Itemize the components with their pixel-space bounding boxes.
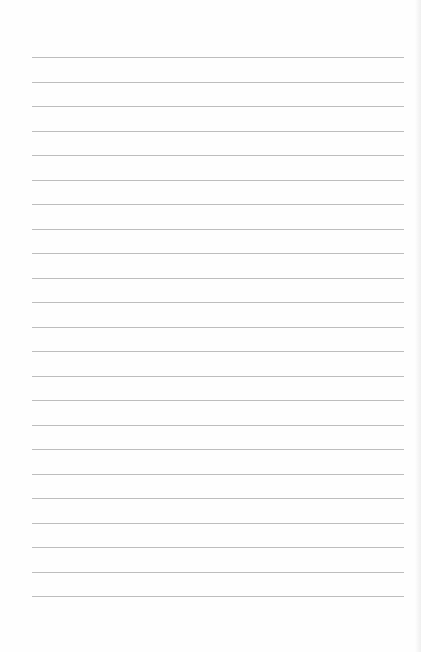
ruled-line [32,376,404,377]
ruled-line [32,57,404,58]
page-edge-shadow [415,0,421,652]
ruled-line [32,400,404,401]
ruled-line [32,278,404,279]
ruled-line [32,106,404,107]
ruled-line [32,449,404,450]
ruled-line [32,523,404,524]
ruled-line [32,498,404,499]
ruled-line [32,180,404,181]
ruled-line [32,351,404,352]
ruled-line [32,302,404,303]
lined-paper-page [0,0,421,652]
ruled-line [32,229,404,230]
ruled-line [32,204,404,205]
ruled-line [32,474,404,475]
ruled-line [32,572,404,573]
ruled-line [32,82,404,83]
ruled-line [32,327,404,328]
ruled-line [32,155,404,156]
ruled-line [32,596,404,597]
ruled-line [32,131,404,132]
ruled-line [32,425,404,426]
ruled-line [32,547,404,548]
ruled-line [32,253,404,254]
